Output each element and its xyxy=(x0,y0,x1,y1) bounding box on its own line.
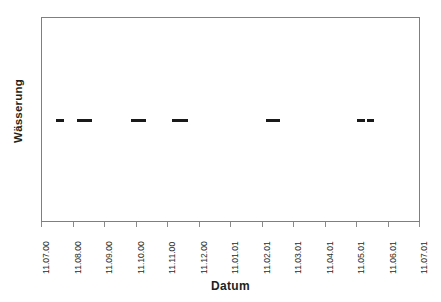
x-axis-tick-label-text: 11.02.01 xyxy=(262,241,272,274)
data-mark xyxy=(367,119,374,121)
x-axis-tick xyxy=(73,222,74,227)
data-mark xyxy=(172,119,188,121)
data-mark xyxy=(77,119,92,121)
x-axis-tick-label-text: 11.06.01 xyxy=(388,241,398,274)
x-axis-tick-label-text: 11.11.00 xyxy=(167,242,177,274)
x-axis-tick-label-text: 11.07.01 xyxy=(419,241,429,274)
x-axis-tick xyxy=(356,222,357,227)
x-axis-tick xyxy=(388,222,389,227)
x-axis-tick xyxy=(230,222,231,227)
x-axis-tick-label-text: 11.07.00 xyxy=(41,241,51,274)
x-axis-tick-label-text: 11.12.00 xyxy=(199,241,209,274)
x-axis-tick xyxy=(293,222,294,227)
x-axis-ticks xyxy=(41,222,420,227)
data-mark xyxy=(131,119,146,121)
x-axis-tick-label-text: 11.03.01 xyxy=(293,241,303,274)
x-axis-tick-label-text: 11.10.00 xyxy=(136,241,146,274)
x-axis-tick xyxy=(167,222,168,227)
data-mark xyxy=(266,119,280,121)
x-axis-label: Datum xyxy=(41,279,420,293)
x-axis-tick xyxy=(419,222,420,227)
x-axis-tick-label-text: 11.04.01 xyxy=(325,241,335,274)
plot-area xyxy=(41,17,420,222)
x-axis-tick xyxy=(199,222,200,227)
x-axis-tick-label-text: 11.09.00 xyxy=(104,241,114,274)
x-axis-tick xyxy=(104,222,105,227)
data-mark xyxy=(357,119,364,121)
x-axis-tick xyxy=(136,222,137,227)
data-mark xyxy=(56,119,64,121)
y-axis-label: Wässerung xyxy=(0,0,36,222)
chart-figure: Wässerung 11.07.0011.08.0011.09.0011.10.… xyxy=(0,0,441,302)
data-marks-layer xyxy=(42,18,419,221)
y-axis-label-text: Wässerung xyxy=(12,79,24,143)
x-axis-tick xyxy=(262,222,263,227)
x-axis-tick-label-text: 11.08.00 xyxy=(73,241,83,274)
x-axis-tick xyxy=(325,222,326,227)
x-axis-tick-labels: 11.07.0011.08.0011.09.0011.10.0011.11.00… xyxy=(41,228,420,276)
x-axis-tick-label-text: 11.05.01 xyxy=(356,241,366,274)
x-axis-tick-label-text: 11.01.01 xyxy=(230,241,240,274)
x-axis-tick xyxy=(41,222,42,227)
